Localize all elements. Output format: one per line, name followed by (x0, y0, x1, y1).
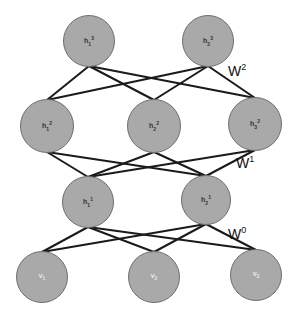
edge-h1_3-h2_2 (89, 66, 154, 100)
node-label: v2 (151, 272, 158, 281)
node-h2_2: h22 (127, 99, 181, 153)
node-label: h13 (84, 35, 94, 47)
weight-label-w1: W1 (236, 154, 254, 171)
node-v3: v3 (230, 249, 282, 301)
node-label: h12 (42, 120, 52, 132)
node-h2_3: h23 (182, 15, 234, 67)
weight-label-w0: W0 (228, 225, 246, 242)
node-v2: v2 (128, 251, 180, 303)
node-label: v3 (253, 270, 260, 279)
node-v1: v1 (16, 251, 68, 303)
node-label: h22 (149, 120, 159, 132)
node-h3_2: h32 (228, 97, 282, 151)
node-h1_2: h12 (20, 99, 74, 153)
node-label: h21 (201, 194, 211, 206)
weight-label-w2: W2 (228, 62, 246, 79)
edge-h2_3-h1_2 (47, 66, 208, 100)
neural-network-diagram: h13h23h12h22h32h11h21v1v2v3W2W1W0 (0, 0, 298, 322)
node-h2_1: h21 (181, 175, 231, 225)
node-label: h32 (250, 118, 260, 130)
node-label: v1 (39, 272, 46, 281)
node-h1_1: h11 (62, 176, 114, 228)
node-label: h23 (203, 35, 213, 47)
node-h1_3: h13 (63, 15, 115, 67)
node-label: h11 (83, 196, 93, 208)
edge-h2_2-h1_1 (88, 152, 154, 177)
